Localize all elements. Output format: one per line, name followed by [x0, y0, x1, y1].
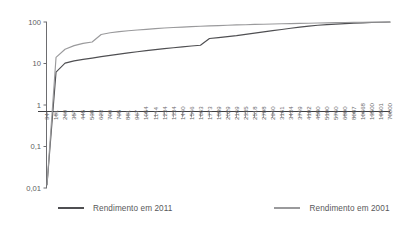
svg-text:1440: 1440 [179, 106, 186, 120]
svg-text:1334: 1334 [170, 106, 177, 120]
svg-text:967: 967 [133, 109, 140, 120]
chart-figure: 1001010,10,01 94181269357445538623709795… [0, 0, 398, 231]
svg-text:8087: 8087 [350, 106, 357, 120]
y-axis-tick-labels: 1001010,10,01 [26, 18, 41, 193]
svg-text:4102: 4102 [305, 106, 312, 120]
svg-text:0,01: 0,01 [26, 184, 41, 193]
svg-text:623: 623 [97, 109, 104, 120]
svg-text:4580: 4580 [314, 106, 321, 120]
svg-text:538: 538 [88, 109, 95, 120]
legend-item-2011: Rendimento em 2011 [58, 204, 172, 213]
svg-text:100: 100 [28, 18, 41, 27]
svg-text:1663: 1663 [197, 106, 204, 120]
svg-text:357: 357 [70, 109, 77, 120]
svg-text:70000: 70000 [386, 102, 393, 120]
legend-swatch-2011 [58, 207, 84, 209]
svg-text:1054: 1054 [142, 106, 149, 120]
svg-text:0,1: 0,1 [30, 142, 41, 151]
svg-text:6800: 6800 [341, 106, 348, 120]
svg-text:2940: 2940 [269, 106, 276, 120]
legend-swatch-2001 [274, 207, 300, 209]
series-lines [47, 22, 390, 185]
svg-text:3161: 3161 [278, 106, 285, 120]
svg-text:19501: 19501 [377, 102, 384, 120]
svg-text:2335: 2335 [242, 106, 249, 120]
svg-text:10: 10 [33, 59, 41, 68]
svg-text:1144: 1144 [152, 106, 159, 120]
svg-text:1889: 1889 [215, 106, 222, 120]
svg-text:2518: 2518 [251, 106, 258, 120]
svg-text:2169: 2169 [233, 106, 240, 120]
svg-text:5760: 5760 [332, 106, 339, 120]
svg-text:2708: 2708 [260, 106, 267, 120]
svg-text:3434: 3434 [287, 106, 294, 120]
svg-text:445: 445 [79, 109, 86, 120]
svg-text:13500: 13500 [368, 102, 375, 120]
legend-label-2011: Rendimento em 2011 [93, 204, 172, 213]
svg-text:10668: 10668 [359, 102, 366, 120]
chart-legend: Rendimento em 2011 Rendimento em 2001 [0, 196, 398, 220]
svg-text:2029: 2029 [224, 106, 231, 120]
svg-text:1773: 1773 [206, 106, 213, 120]
legend-item-2001: Rendimento em 2001 [274, 204, 389, 213]
svg-text:1: 1 [37, 101, 41, 110]
svg-text:269: 269 [61, 109, 68, 120]
svg-text:795: 795 [115, 109, 122, 120]
svg-text:1546: 1546 [188, 106, 195, 120]
legend-label-2001: Rendimento em 2001 [309, 204, 389, 213]
svg-text:1234: 1234 [161, 106, 168, 120]
svg-text:881: 881 [124, 109, 131, 120]
svg-text:3749: 3749 [296, 106, 303, 120]
svg-text:94: 94 [43, 113, 50, 120]
svg-text:5100: 5100 [323, 106, 330, 120]
svg-text:709: 709 [106, 109, 113, 120]
